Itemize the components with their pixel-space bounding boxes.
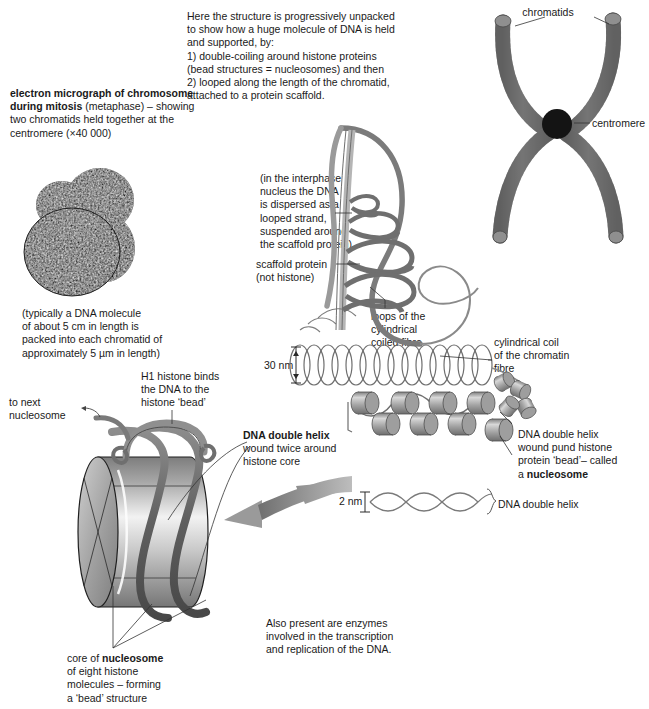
nucleosome-bead [372,413,400,435]
chromatids-leader-left [515,17,545,26]
nucleosome-bead [467,392,495,414]
chromatids-label: chromatids [522,6,573,18]
solenoid-coil [290,309,528,388]
nucleosome-bead [485,419,513,441]
diagram-canvas: Here the structure is progressively unpa… [0,0,649,709]
chromatid-arm-lower-right [566,134,616,236]
cylindrical-coil-leader2 [440,356,492,360]
nucleosome-bead [410,413,438,435]
centromere-dot [542,109,572,139]
magnification-arrow [224,476,352,528]
centromere-label: centromere [592,117,645,129]
nucleosome-bead [351,392,379,414]
nucleosome-bead-cluster [492,370,538,421]
diagram-graphics: chromatids centromere [0,0,649,709]
scale-bar-2nm [360,492,370,512]
chromatid-arm-lower-left [500,133,549,236]
chromatid-tip-ul [495,15,511,27]
chromatid-tip-lr [609,231,623,243]
core-nucleosome-leader-2 [113,604,152,648]
dna-brace [487,489,496,514]
electron-micrograph-image [24,168,135,296]
dna-double-helix-strand [360,489,496,514]
nucleosome-bead [391,392,419,414]
nucleosome-bead [429,392,457,414]
chromatid-arm-upper-left [503,22,548,131]
nucleosome-cylinder [78,406,214,618]
chromatid-tip-ll [493,231,507,243]
nucleosome-bead [448,413,476,435]
